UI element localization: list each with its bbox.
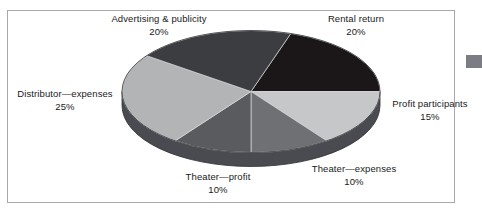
slice-label-distributor-expenses: Distributor—expenses 25% [6, 88, 124, 113]
slice-label-theater-profit-name: Theater—profit [186, 171, 251, 182]
slice-label-profit-participants-value: 15% [378, 111, 482, 124]
slice-label-rental-return-name: Rental return [328, 13, 384, 24]
slice-label-distributor-expenses-name: Distributor—expenses [17, 88, 112, 99]
pie-top-surface [122, 31, 380, 153]
slice-label-rental-return-value: 20% [296, 26, 416, 39]
slice-label-advertising-value: 20% [96, 26, 222, 39]
slice-label-profit-participants: Profit participants 15% [378, 98, 482, 123]
slice-label-theater-expenses-name: Theater—expenses [312, 163, 397, 174]
slice-label-advertising: Advertising & publicity 20% [96, 13, 222, 38]
slice-label-profit-participants-name: Profit participants [392, 98, 467, 109]
figure-page: Advertising & publicity 20% Rental retur… [0, 0, 482, 215]
slice-label-theater-expenses: Theater—expenses 10% [292, 163, 416, 188]
slice-label-advertising-name: Advertising & publicity [111, 13, 206, 24]
slice-label-distributor-expenses-value: 25% [6, 101, 124, 114]
slice-label-theater-profit-value: 10% [160, 184, 276, 197]
slice-label-rental-return: Rental return 20% [296, 13, 416, 38]
slice-label-theater-profit: Theater—profit 10% [160, 171, 276, 196]
slice-label-theater-expenses-value: 10% [292, 176, 416, 189]
